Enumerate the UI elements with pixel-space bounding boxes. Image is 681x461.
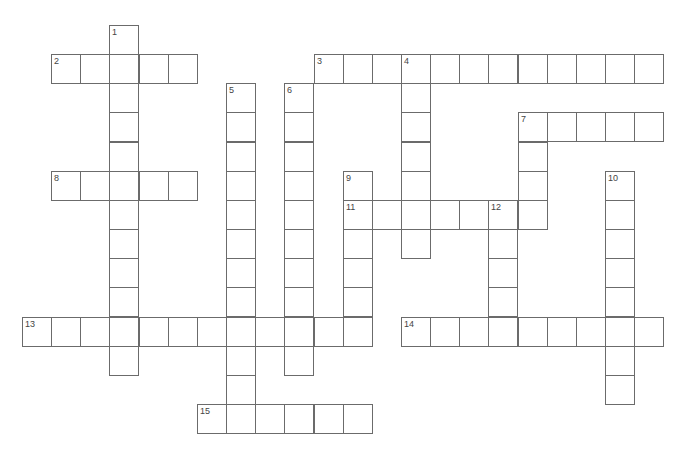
crossword-cell[interactable] bbox=[109, 200, 139, 230]
crossword-cell[interactable] bbox=[605, 54, 635, 84]
crossword-cell[interactable] bbox=[109, 317, 139, 347]
crossword-cell[interactable] bbox=[430, 200, 460, 230]
crossword-cell[interactable] bbox=[343, 317, 373, 347]
crossword-cell[interactable] bbox=[518, 317, 548, 347]
crossword-cell[interactable] bbox=[284, 317, 314, 347]
crossword-cell[interactable] bbox=[255, 404, 285, 434]
crossword-cell[interactable] bbox=[168, 317, 198, 347]
crossword-cell[interactable] bbox=[518, 54, 548, 84]
crossword-cell[interactable] bbox=[284, 229, 314, 259]
crossword-cell[interactable] bbox=[488, 229, 518, 259]
crossword-cell[interactable] bbox=[547, 317, 577, 347]
crossword-cell[interactable] bbox=[109, 83, 139, 113]
crossword-cell[interactable] bbox=[547, 54, 577, 84]
crossword-cell[interactable] bbox=[518, 142, 548, 172]
crossword-cell[interactable] bbox=[430, 54, 460, 84]
crossword-cell[interactable] bbox=[605, 317, 635, 347]
crossword-cell[interactable]: 10 bbox=[605, 171, 635, 201]
crossword-cell[interactable]: 4 bbox=[401, 54, 431, 84]
crossword-cell[interactable] bbox=[605, 375, 635, 405]
crossword-cell[interactable] bbox=[401, 229, 431, 259]
crossword-cell[interactable] bbox=[139, 317, 169, 347]
crossword-cell[interactable] bbox=[343, 229, 373, 259]
crossword-cell[interactable] bbox=[109, 112, 139, 142]
crossword-cell[interactable] bbox=[226, 171, 256, 201]
crossword-cell[interactable] bbox=[634, 54, 664, 84]
crossword-cell[interactable] bbox=[488, 287, 518, 317]
crossword-cell[interactable] bbox=[226, 404, 256, 434]
crossword-cell[interactable] bbox=[459, 54, 489, 84]
crossword-cell[interactable] bbox=[430, 317, 460, 347]
crossword-cell[interactable]: 15 bbox=[197, 404, 227, 434]
crossword-cell[interactable]: 2 bbox=[51, 54, 81, 84]
crossword-cell[interactable] bbox=[226, 142, 256, 172]
crossword-cell[interactable] bbox=[226, 287, 256, 317]
crossword-cell[interactable] bbox=[109, 258, 139, 288]
crossword-cell[interactable] bbox=[226, 112, 256, 142]
crossword-cell[interactable] bbox=[314, 404, 344, 434]
crossword-cell[interactable] bbox=[109, 287, 139, 317]
crossword-cell[interactable]: 11 bbox=[343, 200, 373, 230]
crossword-cell[interactable]: 6 bbox=[284, 83, 314, 113]
crossword-cell[interactable] bbox=[401, 142, 431, 172]
crossword-cell[interactable] bbox=[576, 54, 606, 84]
crossword-cell[interactable] bbox=[284, 346, 314, 376]
crossword-cell[interactable]: 3 bbox=[314, 54, 344, 84]
crossword-cell[interactable] bbox=[401, 171, 431, 201]
crossword-cell[interactable] bbox=[634, 112, 664, 142]
crossword-cell[interactable] bbox=[343, 258, 373, 288]
crossword-cell[interactable]: 1 bbox=[109, 25, 139, 55]
crossword-cell[interactable] bbox=[401, 112, 431, 142]
crossword-cell[interactable] bbox=[80, 54, 110, 84]
crossword-cell[interactable] bbox=[284, 142, 314, 172]
crossword-cell[interactable] bbox=[284, 200, 314, 230]
crossword-cell[interactable] bbox=[284, 112, 314, 142]
crossword-cell[interactable]: 8 bbox=[51, 171, 81, 201]
crossword-cell[interactable]: 14 bbox=[401, 317, 431, 347]
crossword-cell[interactable] bbox=[80, 317, 110, 347]
crossword-cell[interactable] bbox=[51, 317, 81, 347]
crossword-cell[interactable] bbox=[634, 317, 664, 347]
crossword-cell[interactable] bbox=[226, 258, 256, 288]
crossword-cell[interactable] bbox=[401, 200, 431, 230]
crossword-cell[interactable] bbox=[547, 112, 577, 142]
crossword-cell[interactable] bbox=[488, 54, 518, 84]
crossword-cell[interactable] bbox=[576, 112, 606, 142]
crossword-cell[interactable] bbox=[518, 200, 548, 230]
crossword-cell[interactable] bbox=[372, 200, 402, 230]
crossword-cell[interactable]: 5 bbox=[226, 83, 256, 113]
crossword-cell[interactable] bbox=[605, 112, 635, 142]
crossword-cell[interactable] bbox=[226, 229, 256, 259]
crossword-cell[interactable] bbox=[605, 200, 635, 230]
crossword-cell[interactable] bbox=[518, 171, 548, 201]
crossword-cell[interactable] bbox=[605, 229, 635, 259]
crossword-cell[interactable] bbox=[139, 54, 169, 84]
crossword-cell[interactable] bbox=[605, 346, 635, 376]
crossword-cell[interactable] bbox=[226, 317, 256, 347]
crossword-cell[interactable] bbox=[284, 258, 314, 288]
crossword-cell[interactable] bbox=[109, 54, 139, 84]
crossword-cell[interactable] bbox=[109, 142, 139, 172]
crossword-cell[interactable] bbox=[576, 317, 606, 347]
crossword-cell[interactable] bbox=[343, 54, 373, 84]
crossword-cell[interactable] bbox=[372, 54, 402, 84]
crossword-cell[interactable] bbox=[168, 54, 198, 84]
crossword-cell[interactable] bbox=[109, 171, 139, 201]
crossword-cell[interactable]: 9 bbox=[343, 171, 373, 201]
crossword-cell[interactable] bbox=[226, 346, 256, 376]
crossword-cell[interactable] bbox=[255, 317, 285, 347]
crossword-cell[interactable] bbox=[109, 346, 139, 376]
crossword-cell[interactable]: 12 bbox=[488, 200, 518, 230]
crossword-cell[interactable] bbox=[284, 404, 314, 434]
crossword-cell[interactable] bbox=[343, 287, 373, 317]
crossword-cell[interactable] bbox=[109, 229, 139, 259]
crossword-cell[interactable] bbox=[80, 171, 110, 201]
crossword-cell[interactable] bbox=[459, 200, 489, 230]
crossword-cell[interactable] bbox=[226, 375, 256, 405]
crossword-cell[interactable]: 7 bbox=[518, 112, 548, 142]
crossword-cell[interactable] bbox=[401, 83, 431, 113]
crossword-cell[interactable] bbox=[197, 317, 227, 347]
crossword-cell[interactable] bbox=[343, 404, 373, 434]
crossword-cell[interactable] bbox=[226, 200, 256, 230]
crossword-cell[interactable] bbox=[314, 317, 344, 347]
